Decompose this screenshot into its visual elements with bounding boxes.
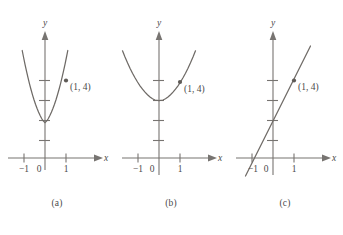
panel-caption-a: (a) <box>0 198 114 208</box>
point-b-1-4 <box>178 80 182 84</box>
figure-three-graphs: x y −1 0 1 (1, 4) (a) <box>0 0 343 235</box>
x-tick-label-a-neg1: −1 <box>19 164 29 174</box>
point-a-1-4 <box>64 78 68 82</box>
point-label-a: (1, 4) <box>70 82 91 93</box>
x-tick-label-b-one: 1 <box>178 164 183 174</box>
axis-label-x-a: x <box>103 153 109 163</box>
axis-label-y-a: y <box>42 18 48 28</box>
point-c-1-4 <box>292 78 296 82</box>
x-tick-label-c-zero: 0 <box>264 164 269 174</box>
curve-c-line <box>246 46 311 176</box>
panel-row: x y −1 0 1 (1, 4) (a) <box>0 0 343 235</box>
y-axis-c <box>270 31 277 175</box>
x-tick-label-a-zero: 0 <box>37 164 42 174</box>
panel-caption-c: (c) <box>228 198 342 208</box>
axis-label-y-b: y <box>156 18 162 28</box>
panel-caption-b: (b) <box>114 198 228 208</box>
x-axis-c <box>236 155 331 162</box>
panel-a: x y −1 0 1 (1, 4) (a) <box>0 0 114 235</box>
graph-c-svg: x y −1 0 1 (1, 4) <box>228 10 342 195</box>
axis-label-y-c: y <box>270 18 276 28</box>
x-tick-label-c-neg1: −1 <box>248 164 258 174</box>
axis-label-x-c: x <box>331 153 337 163</box>
x-tick-label-c-one: 1 <box>292 164 297 174</box>
x-tick-label-b-zero: 0 <box>150 164 155 174</box>
x-axis-b <box>122 155 217 162</box>
point-label-c: (1, 4) <box>298 82 319 93</box>
x-tick-label-a-one: 1 <box>64 164 69 174</box>
y-axis-b <box>156 31 163 175</box>
graph-a-svg: x y −1 0 1 (1, 4) <box>0 10 114 195</box>
point-label-b: (1, 4) <box>184 84 205 95</box>
x-tick-label-b-neg1: −1 <box>133 164 143 174</box>
panel-b: x y −1 0 1 (1, 4) (b) <box>114 0 228 235</box>
panel-c: x y −1 0 1 (1, 4) (c) <box>228 0 342 235</box>
graph-b-svg: x y −1 0 1 (1, 4) <box>114 10 228 195</box>
x-axis-a <box>8 155 103 162</box>
axis-label-x-b: x <box>217 153 223 163</box>
